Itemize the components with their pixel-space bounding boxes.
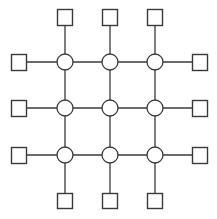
circle-node-r2-c3 [147,100,163,116]
square-terminal-left-1 [12,55,27,71]
square-terminal-bottom-1 [58,194,73,209]
square-terminal-top-2 [103,10,118,26]
circle-node-r1-c2 [102,54,118,70]
circle-node-r3-c1 [57,147,73,163]
diagram-canvas [0,0,217,219]
circle-nodes-group [57,54,163,163]
square-terminal-top-3 [148,10,163,26]
square-terminal-bottom-3 [148,194,163,209]
circle-node-r2-c1 [57,100,73,116]
square-terminal-right-1 [193,55,208,71]
square-terminal-right-3 [193,148,208,164]
circle-node-r3-c3 [147,147,163,163]
circle-node-r1-c3 [147,54,163,70]
square-terminal-left-3 [12,148,27,164]
circle-node-r3-c2 [102,147,118,163]
square-terminal-left-2 [12,101,27,117]
circle-node-r1-c1 [57,54,73,70]
grid-network-diagram [0,0,217,219]
circle-node-r2-c2 [102,100,118,116]
square-terminal-top-1 [58,10,73,26]
square-terminal-right-2 [193,101,208,117]
square-terminal-bottom-2 [103,194,118,209]
